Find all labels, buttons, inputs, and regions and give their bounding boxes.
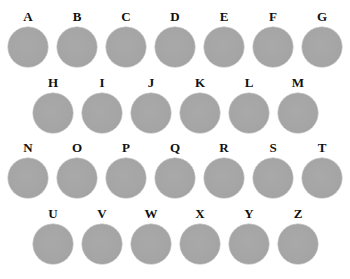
gray-disc — [229, 224, 269, 264]
gray-disc — [204, 158, 244, 198]
gray-disc — [204, 27, 244, 67]
gray-disc — [131, 93, 171, 133]
gray-disc — [278, 93, 318, 133]
swatch-label: E — [204, 10, 244, 24]
gray-disc — [155, 27, 195, 67]
swatch-E: E — [204, 10, 244, 66]
swatch-C: C — [106, 10, 146, 66]
gray-disc — [131, 224, 171, 264]
swatch-V: V — [82, 207, 122, 263]
swatch-A: A — [8, 10, 48, 66]
swatch-label: U — [33, 207, 73, 221]
swatch-L: L — [229, 76, 269, 132]
swatch-label: I — [82, 76, 122, 90]
gray-disc — [57, 158, 97, 198]
swatch-label: Q — [155, 141, 195, 155]
gray-disc — [82, 93, 122, 133]
swatch-label: L — [229, 76, 269, 90]
swatch-label: X — [180, 207, 220, 221]
swatch-D: D — [155, 10, 195, 66]
swatch-J: J — [131, 76, 171, 132]
swatch-U: U — [33, 207, 73, 263]
swatch-label: M — [278, 76, 318, 90]
swatch-label: B — [57, 10, 97, 24]
gray-disc — [180, 93, 220, 133]
gray-disc — [229, 93, 269, 133]
swatch-label: Y — [229, 207, 269, 221]
swatch-label: V — [82, 207, 122, 221]
gray-disc — [33, 93, 73, 133]
swatch-X: X — [180, 207, 220, 263]
swatch-label: R — [204, 141, 244, 155]
swatch-label: F — [253, 10, 293, 24]
swatch-Z: Z — [278, 207, 318, 263]
swatch-label: W — [131, 207, 171, 221]
swatch-P: P — [106, 141, 146, 197]
gray-disc — [302, 27, 342, 67]
swatch-label: O — [57, 141, 97, 155]
swatch-Q: Q — [155, 141, 195, 197]
swatch-label: T — [302, 141, 342, 155]
swatch-G: G — [302, 10, 342, 66]
swatch-K: K — [180, 76, 220, 132]
swatch-label: P — [106, 141, 146, 155]
gray-disc — [8, 27, 48, 67]
gray-disc — [180, 224, 220, 264]
swatch-label: Z — [278, 207, 318, 221]
swatch-label: G — [302, 10, 342, 24]
gray-disc — [253, 158, 293, 198]
swatch-I: I — [82, 76, 122, 132]
swatch-label: D — [155, 10, 195, 24]
swatch-label: H — [33, 76, 73, 90]
gray-disc — [106, 158, 146, 198]
gray-disc — [82, 224, 122, 264]
swatch-B: B — [57, 10, 97, 66]
swatch-label: C — [106, 10, 146, 24]
gray-disc — [106, 27, 146, 67]
swatch-label: S — [253, 141, 293, 155]
swatch-T: T — [302, 141, 342, 197]
swatch-Y: Y — [229, 207, 269, 263]
gray-disc — [278, 224, 318, 264]
gray-disc — [302, 158, 342, 198]
swatch-S: S — [253, 141, 293, 197]
gray-disc — [155, 158, 195, 198]
gray-disc — [57, 27, 97, 67]
gray-disc — [253, 27, 293, 67]
swatch-H: H — [33, 76, 73, 132]
swatch-O: O — [57, 141, 97, 197]
swatch-label: J — [131, 76, 171, 90]
gray-disc — [33, 224, 73, 264]
swatch-N: N — [8, 141, 48, 197]
swatch-M: M — [278, 76, 318, 132]
swatch-W: W — [131, 207, 171, 263]
swatch-label: K — [180, 76, 220, 90]
gray-disc — [8, 158, 48, 198]
swatch-R: R — [204, 141, 244, 197]
swatch-F: F — [253, 10, 293, 66]
swatch-label: A — [8, 10, 48, 24]
swatch-label: N — [8, 141, 48, 155]
